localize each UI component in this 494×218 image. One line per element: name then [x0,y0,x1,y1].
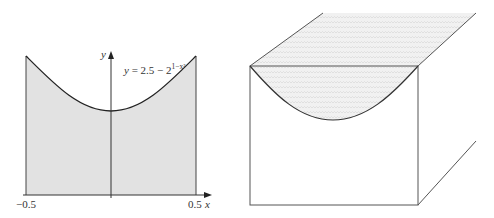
y-axis-arrow-icon [108,51,114,59]
function-label-exponent: 1−x² [172,62,187,71]
x-axis-label: x [204,198,210,210]
right-solid [250,13,476,205]
tick-label-right: 0.5 [188,198,202,210]
function-label: y = 2.5 − 21−x² [123,62,186,76]
top-face-shading [250,13,476,66]
y-axis-label: y [100,48,106,60]
function-label-rest: = 2.5 − 2 [129,64,172,76]
figure-canvas: y x −0.5 0.5 y = 2.5 − 21−x² [0,0,494,218]
left-graph: y x −0.5 0.5 y = 2.5 − 21−x² [16,48,212,210]
tick-label-left: −0.5 [16,198,36,210]
bottom-right-edge [418,141,476,205]
